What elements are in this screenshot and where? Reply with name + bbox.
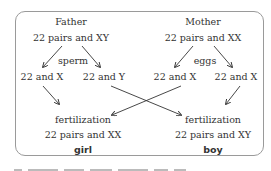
arrow-mother-to-x2 <box>214 46 232 67</box>
arrows <box>0 0 271 171</box>
arrow-father-to-y <box>82 46 100 67</box>
arrow-father-x-to-girl <box>43 86 59 104</box>
caption-cropped <box>14 165 224 171</box>
arrow-mother-x2-to-boy <box>226 86 240 104</box>
arrow-father-to-x <box>43 46 62 67</box>
arrow-mother-to-x1 <box>175 46 193 67</box>
